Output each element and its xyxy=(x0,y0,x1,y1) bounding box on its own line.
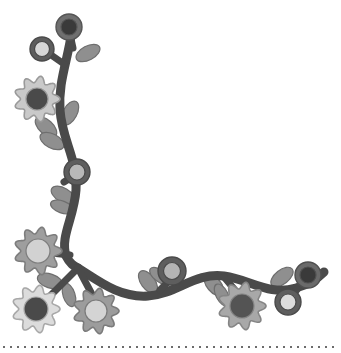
border-dot xyxy=(255,346,257,348)
border-dot xyxy=(297,346,299,348)
border-dot xyxy=(164,346,166,348)
border-dot xyxy=(206,346,208,348)
border-dot xyxy=(122,346,124,348)
border-dot xyxy=(115,346,117,348)
border-dot xyxy=(262,346,264,348)
border-dot xyxy=(318,346,320,348)
border-dot xyxy=(332,346,334,348)
flower-center xyxy=(164,263,181,280)
border-dot xyxy=(108,346,110,348)
border-dot xyxy=(304,346,306,348)
border-dot xyxy=(94,346,96,348)
border-dot xyxy=(24,346,26,348)
border-dot xyxy=(143,346,145,348)
border-dot xyxy=(80,346,82,348)
border-dot xyxy=(38,346,40,348)
flower-center xyxy=(61,19,77,35)
floral-border-artboard xyxy=(0,0,341,353)
border-dot xyxy=(52,346,54,348)
flower-center xyxy=(280,294,296,310)
border-dot xyxy=(290,346,292,348)
border-dot xyxy=(87,346,89,348)
ring-flower-top xyxy=(56,14,82,40)
border-dot xyxy=(136,346,138,348)
border-dot xyxy=(178,346,180,348)
ring-flower-far-right-lower xyxy=(275,289,301,315)
flower-center xyxy=(300,267,316,283)
ring-flower-center-bottom xyxy=(158,257,186,285)
border-dot xyxy=(283,346,285,348)
border-dot xyxy=(199,346,201,348)
border-dot xyxy=(227,346,229,348)
ring-flower-far-right-upper xyxy=(295,262,321,288)
border-dot xyxy=(59,346,61,348)
floral-border-illustration xyxy=(0,0,341,353)
flower-center xyxy=(85,300,107,322)
border-dot xyxy=(185,346,187,348)
border-dot xyxy=(129,346,131,348)
border-dot xyxy=(220,346,222,348)
ring-flower-upper-left xyxy=(30,37,54,61)
border-dot xyxy=(45,346,47,348)
border-dot xyxy=(171,346,173,348)
ring-flower-mid-stem xyxy=(64,159,90,185)
border-dot xyxy=(10,346,12,348)
flower-center xyxy=(35,42,50,57)
border-dot xyxy=(241,346,243,348)
border-dot xyxy=(311,346,313,348)
border-dot xyxy=(3,346,5,348)
border-dot xyxy=(248,346,250,348)
flower-center xyxy=(26,239,50,263)
border-dot xyxy=(234,346,236,348)
border-dot xyxy=(157,346,159,348)
border-dot xyxy=(276,346,278,348)
border-dot xyxy=(213,346,215,348)
border-dot xyxy=(325,346,327,348)
border-dot xyxy=(66,346,68,348)
flower-center xyxy=(230,294,254,318)
flower-center xyxy=(69,164,85,180)
flower-center xyxy=(24,297,48,321)
border-dot xyxy=(101,346,103,348)
border-dot xyxy=(192,346,194,348)
border-dot xyxy=(17,346,19,348)
border-dot xyxy=(31,346,33,348)
border-dot xyxy=(269,346,271,348)
flower-center xyxy=(26,88,48,110)
border-dot xyxy=(150,346,152,348)
border-dot xyxy=(73,346,75,348)
